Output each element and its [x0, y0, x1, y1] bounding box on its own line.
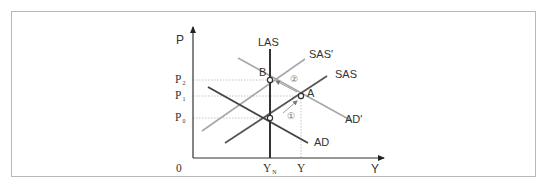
- y-output-label: Y: [297, 163, 305, 175]
- step1-marker: ①: [287, 112, 295, 121]
- ad-label: AD: [314, 137, 329, 148]
- origin-label: 0: [176, 163, 182, 175]
- y-axis-label: P: [176, 34, 184, 46]
- x-axis-label: Y: [371, 163, 379, 175]
- point-a-marker: [298, 93, 303, 98]
- sas-prime-label: SAS': [309, 49, 333, 60]
- ad-as-diagram: [0, 0, 554, 196]
- ad-prime-label: AD': [345, 114, 362, 125]
- point-a-label: A: [307, 88, 314, 99]
- point-e0-marker: [267, 115, 272, 120]
- yn-label: YN: [263, 163, 277, 175]
- step2-marker: ②: [290, 75, 298, 84]
- guide-lines: [193, 80, 301, 158]
- point-b-marker: [267, 77, 272, 82]
- p1-label: P1: [175, 90, 185, 102]
- sas-label: SAS: [335, 69, 357, 80]
- p0-label: P0: [175, 112, 185, 124]
- p2-label: P2: [175, 74, 185, 86]
- las-label: LAS: [258, 37, 279, 48]
- point-b-label: B: [259, 67, 266, 78]
